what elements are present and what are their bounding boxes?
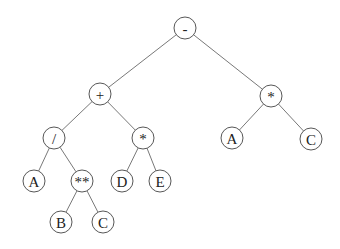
edge-mulL-e xyxy=(147,148,156,171)
edge-root-plus xyxy=(109,35,177,88)
tree-node-e: E xyxy=(149,170,171,192)
edge-mulR-aR xyxy=(239,104,263,130)
edge-div-pow xyxy=(60,147,76,172)
node-label: A xyxy=(227,131,238,147)
tree-node-b: B xyxy=(50,211,72,233)
edge-plus-div xyxy=(62,102,92,131)
node-label: D xyxy=(117,174,128,190)
expression-tree: -+*/*ACA**DEBC xyxy=(0,0,340,249)
node-label: C xyxy=(306,132,316,148)
edge-pow-b xyxy=(66,191,77,212)
edge-plus-mulL xyxy=(108,102,136,130)
tree-node-d: D xyxy=(111,170,133,192)
node-label: * xyxy=(267,89,275,105)
edge-root-mulR xyxy=(194,35,263,89)
tree-node-pow: ** xyxy=(71,170,93,192)
tree-node-cL: C xyxy=(92,211,114,233)
node-label: B xyxy=(56,215,66,231)
node-label: C xyxy=(98,215,108,231)
tree-node-cR: C xyxy=(300,128,322,150)
tree-node-aR: A xyxy=(221,127,243,149)
edge-div-aL xyxy=(39,148,50,171)
node-label: - xyxy=(183,21,188,37)
node-label: + xyxy=(96,87,104,103)
tree-node-mulR: * xyxy=(260,85,282,107)
edge-mulL-d xyxy=(127,148,138,171)
node-label: ** xyxy=(75,174,90,190)
tree-node-aL: A xyxy=(23,170,45,192)
node-label: * xyxy=(139,131,147,147)
tree-node-div: / xyxy=(43,127,65,149)
tree-node-plus: + xyxy=(89,83,111,105)
node-label: E xyxy=(155,174,164,190)
edge-pow-cL xyxy=(87,191,98,212)
tree-node-mulL: * xyxy=(132,127,154,149)
tree-node-root: - xyxy=(174,17,196,39)
edge-mulR-cR xyxy=(278,104,303,131)
node-label: A xyxy=(29,174,40,190)
